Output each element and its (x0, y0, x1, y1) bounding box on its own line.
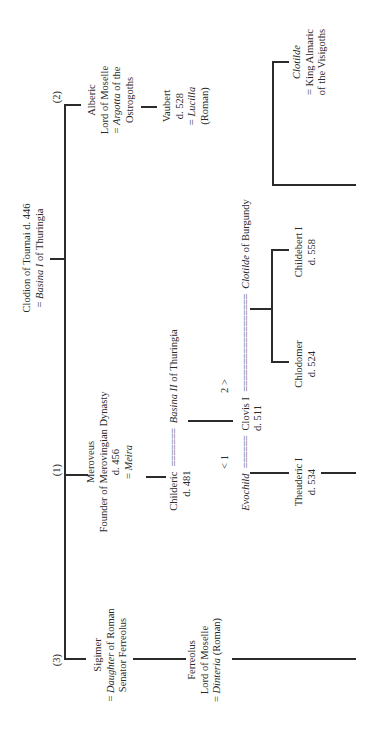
meroveus-childeric-line (146, 476, 166, 478)
branch-3-line (64, 658, 86, 660)
upper-right-trunk (272, 61, 274, 185)
clovis-clotilde-children-connector (250, 308, 272, 310)
clotilde-daughter-branch (272, 61, 289, 63)
theuderic-descendant-line (321, 472, 356, 474)
root-name: Clodion of Tournai d. 446 (21, 203, 34, 312)
sigimer-ferreolus-line (133, 658, 186, 660)
root-connector-line (50, 258, 65, 260)
clovis-theuderic-line (250, 472, 289, 474)
clotilde-children-trunk (271, 249, 273, 362)
childebert-branch-line (271, 249, 289, 251)
branch-2-line (64, 104, 81, 106)
chlodomer-branch-line (271, 361, 289, 363)
root-trunk-line (64, 104, 66, 660)
upper-right-descendant-line (272, 184, 356, 186)
root-spouse: Basina I (33, 264, 44, 299)
alberic-vaubert-line (141, 106, 157, 108)
ferreolus-descendant-line (232, 658, 356, 660)
childeric-clovis-line (188, 420, 233, 422)
